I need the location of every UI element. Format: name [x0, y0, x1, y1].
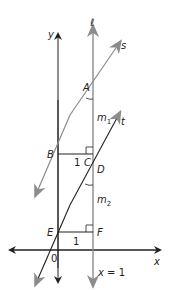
right-angle-f-marker [86, 225, 93, 232]
point-c-label: C [84, 157, 91, 168]
point-b-label: B [47, 149, 54, 160]
slope-parallel-lines-diagram: y ℓ s t x 0 x = 1 A B C D E F 1 1 m1 m2 [0, 0, 169, 290]
angle-arc-m1 [86, 98, 93, 99]
line-l-label: ℓ [90, 17, 94, 28]
line-s-label: s [121, 40, 126, 51]
point-a-label: A [82, 82, 90, 93]
line-t-down [37, 205, 70, 281]
line-l-equation: x = 1 [97, 267, 125, 278]
line-t-label: t [121, 116, 126, 127]
x-axis-label: x [153, 256, 160, 267]
point-e-label: E [47, 227, 54, 238]
right-angle-c-marker [86, 147, 93, 154]
segment-ef-length: 1 [73, 236, 79, 247]
point-d-label: D [97, 164, 105, 175]
y-axis-label: y [47, 29, 55, 40]
line-s [70, 45, 118, 115]
slope-m1-label: m1 [97, 112, 111, 126]
origin-label: 0 [51, 253, 57, 264]
point-f-label: F [97, 227, 103, 238]
angle-arc-m2 [85, 184, 93, 185]
slope-m2-label: m2 [97, 194, 111, 208]
segment-bc-length: 1 [74, 157, 80, 168]
